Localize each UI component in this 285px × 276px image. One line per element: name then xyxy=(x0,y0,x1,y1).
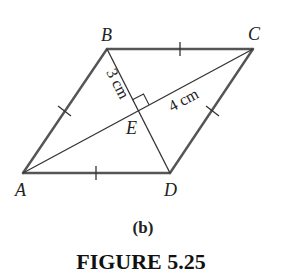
vertex-label-d: D xyxy=(163,180,177,200)
vertex-label-b: B xyxy=(101,25,112,45)
vertex-label-a: A xyxy=(14,180,27,200)
figure-caption: FIGURE 5.25 xyxy=(76,249,206,274)
sub-label: (b) xyxy=(133,218,154,237)
measurement-be: 3 cm xyxy=(103,66,133,102)
vertex-label-c: C xyxy=(248,24,261,44)
tick-mark-ab xyxy=(58,106,71,116)
vertex-label-e: E xyxy=(125,118,137,138)
rhombus-figure: B C A D E 3 cm 4 cm (b) FIGURE 5.25 xyxy=(0,0,285,276)
measurement-ec: 4 cm xyxy=(165,85,201,115)
